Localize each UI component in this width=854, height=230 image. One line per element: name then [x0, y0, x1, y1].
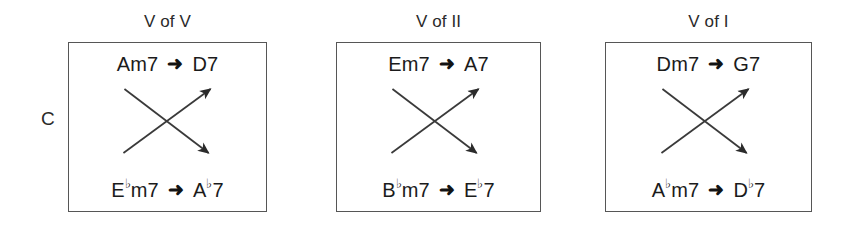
chord-from: E♭m7	[111, 178, 159, 202]
right-arrow-icon: ➜	[439, 52, 455, 76]
top-chord-row: Am7 ➜ D7	[69, 52, 266, 77]
up-arrow-line	[123, 89, 210, 153]
flat-icon: ♭	[477, 176, 483, 191]
chord-to: D♭7	[733, 178, 765, 202]
chord-to: E♭7	[464, 178, 495, 202]
chord-to: A7	[464, 52, 489, 76]
tritone-cross-arrows	[69, 77, 266, 163]
up-arrow-line	[391, 89, 478, 153]
chord-from: Dm7	[657, 52, 700, 76]
chord-from: Em7	[388, 52, 430, 76]
bottom-chord-row: E♭m7 ➜ A♭7	[69, 178, 266, 203]
key-label: C	[41, 108, 55, 130]
right-arrow-icon: ➜	[708, 52, 724, 76]
flat-icon: ♭	[125, 176, 131, 191]
chord-from: B♭m7	[382, 178, 430, 202]
group-title: V of I	[605, 12, 812, 32]
chord-to: D7	[192, 52, 218, 76]
top-chord-row: Em7 ➜ A7	[337, 52, 540, 77]
flat-icon: ♭	[206, 176, 212, 191]
bottom-chord-row: A♭m7 ➜ D♭7	[606, 178, 811, 203]
chord-to: A♭7	[193, 178, 224, 202]
down-arrow-line	[124, 89, 208, 153]
right-arrow-icon: ➜	[439, 178, 455, 202]
flat-icon: ♭	[748, 176, 754, 191]
down-arrow-line	[392, 89, 476, 153]
group-title: V of II	[336, 12, 541, 32]
right-arrow-icon: ➜	[708, 178, 724, 202]
up-arrow-line	[661, 89, 748, 153]
right-arrow-icon: ➜	[167, 52, 183, 76]
bottom-chord-row: B♭m7 ➜ E♭7	[337, 178, 540, 203]
top-chord-row: Dm7 ➜ G7	[606, 52, 811, 77]
tritone-cross-arrows	[606, 77, 811, 163]
chord-box: Dm7 ➜ G7	[605, 42, 812, 212]
chord-from: A♭m7	[652, 178, 700, 202]
chord-from: Am7	[117, 52, 159, 76]
chord-box: Am7 ➜ D7	[68, 42, 267, 212]
right-arrow-icon: ➜	[168, 178, 184, 202]
chord-to: G7	[733, 52, 760, 76]
down-arrow-line	[662, 89, 746, 153]
tritone-cross-arrows	[337, 77, 540, 163]
chord-box: Em7 ➜ A7	[336, 42, 541, 212]
chord-substitution-diagram: C V of V Am7 ➜ D7	[0, 0, 854, 230]
group-title: V of V	[68, 12, 267, 32]
flat-icon: ♭	[665, 176, 671, 191]
flat-icon: ♭	[396, 176, 402, 191]
